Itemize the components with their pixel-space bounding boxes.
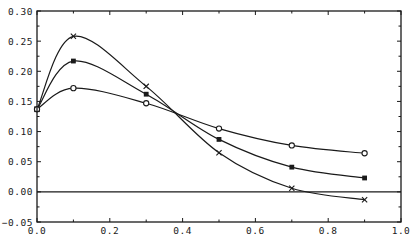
- y-tick-label: 0.10: [8, 126, 33, 137]
- y-tick-label: 0.20: [8, 66, 33, 77]
- y-tick-label: 0.25: [8, 36, 33, 47]
- y-tick-label: 0.30: [8, 6, 33, 17]
- x-tick-label: 0.2: [100, 225, 119, 236]
- x-tick-label: 0.6: [246, 225, 265, 236]
- series-curves: [37, 36, 365, 200]
- circle-marker: [144, 101, 149, 106]
- circle-marker: [289, 143, 294, 148]
- cross-marker: [216, 150, 221, 155]
- square-marker: [362, 176, 367, 181]
- curve-circle: [37, 88, 365, 153]
- line-chart: −0.050.000.050.100.150.200.250.300.00.20…: [0, 0, 413, 247]
- x-tick-label: 0.4: [173, 225, 192, 236]
- square-marker: [217, 137, 222, 142]
- square-marker: [144, 92, 149, 97]
- curve-square: [37, 61, 365, 178]
- cross-marker: [144, 84, 149, 89]
- circle-marker: [362, 151, 367, 156]
- series-markers: [34, 34, 367, 203]
- plot-frame: [37, 11, 401, 222]
- y-tick-label: 0.00: [8, 186, 33, 197]
- square-marker: [289, 165, 294, 170]
- circle-marker: [216, 126, 221, 131]
- y-tick-label: 0.15: [8, 96, 33, 107]
- x-tick-label: 0.0: [28, 225, 47, 236]
- y-tick-label: 0.05: [8, 156, 33, 167]
- circle-marker: [71, 86, 76, 91]
- x-tick-label: 0.8: [319, 225, 338, 236]
- x-tick-label: 1.0: [392, 225, 411, 236]
- axes: −0.050.000.050.100.150.200.250.300.00.20…: [2, 6, 410, 237]
- curve-cross: [37, 36, 365, 200]
- square-marker: [71, 59, 76, 64]
